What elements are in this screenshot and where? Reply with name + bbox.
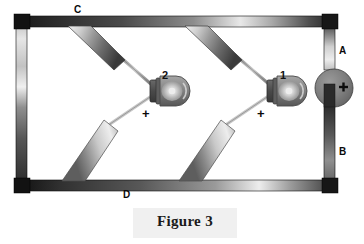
clip-lamp1-lower	[179, 120, 235, 181]
clip-lamp2-lower	[62, 120, 118, 181]
corner-block-bottom-left	[14, 178, 30, 193]
rail-bottom	[22, 180, 334, 191]
battery-contact-strip	[324, 84, 335, 107]
lamp-2-number: 2	[162, 70, 168, 81]
lamp-1	[267, 76, 307, 106]
lamp-2-plus-label: +	[142, 107, 150, 120]
lamp-1-number: 1	[280, 70, 286, 81]
corner-block-bottom-right	[322, 178, 338, 193]
rail-left	[16, 18, 27, 190]
lamp-2	[150, 76, 190, 106]
circuit-diagram: C D A B 2 1 + +	[0, 0, 364, 205]
lamp-2-filament	[169, 88, 176, 94]
clip-lamp1-upper	[185, 26, 242, 70]
figure-container: C D A B 2 1 + + Figure 3	[0, 0, 364, 244]
battery-cell	[315, 69, 353, 107]
rail-top	[22, 16, 334, 27]
label-point-c: C	[74, 5, 81, 15]
lamp-1-filament	[286, 88, 293, 94]
label-point-d: D	[123, 190, 130, 200]
circuit-graphic	[0, 0, 364, 205]
lamp-1-plus-label: +	[257, 107, 265, 120]
clip-lamp2-upper	[68, 26, 125, 70]
label-point-a: A	[339, 46, 346, 56]
figure-caption: Figure 3	[133, 213, 237, 230]
corner-block-top-left	[14, 14, 30, 29]
label-point-b: B	[339, 147, 346, 157]
corner-block-top-right	[322, 14, 338, 29]
